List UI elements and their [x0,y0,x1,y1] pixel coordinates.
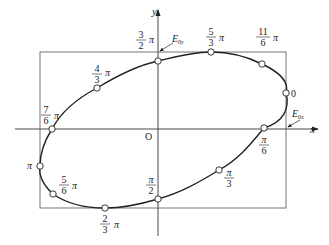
svg-text:π: π [273,32,279,43]
svg-text:3: 3 [95,74,100,85]
label-pi: π [27,160,33,171]
svg-text:3: 3 [227,178,232,189]
svg-text:3: 3 [209,37,214,48]
point-2-3-pi [102,205,108,211]
label-7-6-pi: 7 6 π [41,104,60,126]
label-pi-6: π 6 [259,134,269,156]
svg-text:2: 2 [149,185,154,196]
e0x-pointer [288,120,300,127]
point-5-6-pi [50,191,56,197]
svg-text:π: π [148,174,154,185]
svg-text:π: π [261,134,267,145]
svg-text:π: π [114,219,120,230]
origin-label: O [145,131,152,142]
point-pi [37,163,43,169]
label-pi-3: π 3 [224,167,234,189]
point-5-3-pi [208,49,214,55]
e0x-label: E0x [291,108,304,120]
point-0 [283,90,289,96]
point-3-2-pi [155,58,161,64]
e0y-label: E0y [171,33,184,45]
label-pi-2: π 2 [146,174,156,196]
label-11-6-pi: 11 6 π [256,26,279,48]
point-pi-2 [155,196,161,202]
label-2-3-pi: 2 3 π [100,213,120,235]
svg-text:π: π [105,67,111,78]
point-4-3-pi [94,85,100,91]
x-axis-label: x [309,123,315,135]
svg-text:2: 2 [103,213,108,224]
e0y-pointer [160,43,173,51]
svg-text:4: 4 [95,63,100,74]
y-axis-label: y [151,5,157,17]
svg-text:π: π [54,110,60,121]
svg-text:3: 3 [103,224,108,235]
label-3-2-pi: 3 2 π [136,29,155,51]
svg-text:3: 3 [139,29,144,40]
point-11-6-pi [259,61,265,67]
svg-text:5: 5 [209,26,214,37]
point-pi-6 [261,125,267,131]
label-5-6-pi: 5 6 π [59,174,78,196]
svg-text:2: 2 [139,40,144,51]
svg-text:π: π [72,180,78,191]
svg-text:6: 6 [44,115,49,126]
svg-text:π: π [219,32,225,43]
svg-text:6: 6 [262,145,267,156]
svg-text:11: 11 [258,26,268,37]
svg-text:6: 6 [261,37,266,48]
label-5-3-pi: 5 3 π [206,26,225,48]
ellipse-diagram: y x O E0y E0x 0 π 6 π 3 π 2 2 3 π 5 6 π [0,0,329,245]
point-7-6-pi [49,126,55,132]
svg-text:π: π [149,34,155,45]
svg-text:6: 6 [62,185,67,196]
svg-text:7: 7 [44,104,49,115]
svg-text:5: 5 [62,174,67,185]
point-pi-3 [216,167,222,173]
svg-text:π: π [226,167,232,178]
label-0: 0 [291,88,296,99]
